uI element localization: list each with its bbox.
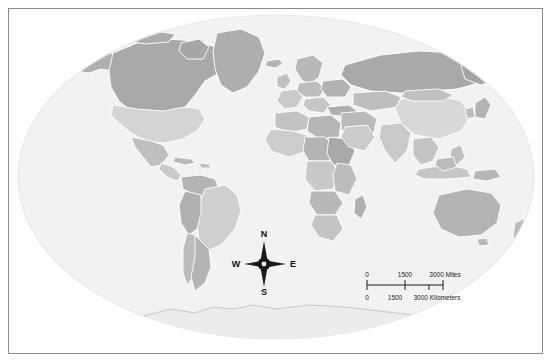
compass-center-dot-icon: [262, 262, 267, 267]
compass-label-east: E: [290, 259, 296, 269]
world-map-page: N E S W 0 1500 3000 Mil: [0, 0, 552, 363]
scale-km-tick-1: 1500: [388, 294, 403, 301]
scale-miles-tick-0: 0: [365, 271, 369, 278]
region-tasmania[interactable]: [477, 238, 489, 246]
map-frame: N E S W 0 1500 3000 Mil: [8, 8, 543, 354]
scale-miles-tick-1: 1500: [398, 271, 413, 278]
compass-label-west: W: [232, 259, 241, 269]
region-angola-zambia[interactable]: [309, 191, 343, 215]
region-hispaniola[interactable]: [199, 163, 211, 168]
scale-miles-tick-2: 3000 Miles: [429, 271, 461, 278]
region-korea[interactable]: [465, 107, 475, 119]
scale-bar-rule: [367, 280, 443, 290]
scale-km-tick-0: 0: [365, 294, 369, 301]
scale-km-tick-2: 3000 Kilometers: [414, 294, 462, 301]
compass-label-north: N: [261, 229, 268, 239]
scale-bar: 0 1500 3000 Miles 0 1500 3000 Kilometers: [361, 267, 469, 305]
compass-rose: N E S W: [231, 225, 297, 297]
compass-label-south: S: [261, 287, 267, 297]
